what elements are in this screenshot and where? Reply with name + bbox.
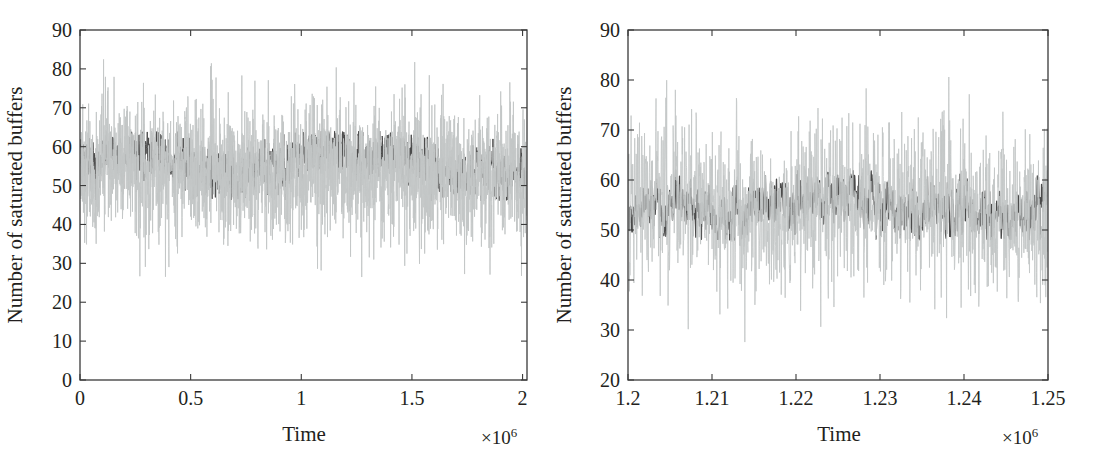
x-exponent-prefix-left: ×10	[481, 427, 511, 448]
y-tick-label-right: 80	[600, 70, 620, 90]
x-axis-title-left: Time	[204, 424, 404, 445]
x-exponent-prefix-right: ×10	[1002, 427, 1032, 448]
y-tick-label-left: 90	[52, 20, 72, 40]
x-tick-label-right: 1.21	[672, 388, 752, 408]
y-tick-label-left: 50	[52, 176, 72, 196]
chart-panel-right: Number of saturated buffers Time ×106 20…	[549, 0, 1099, 461]
x-axis-exponent-right: ×106	[1002, 428, 1038, 447]
y-tick-label-left: 80	[52, 59, 72, 79]
x-axis-exponent-left: ×106	[481, 428, 517, 447]
x-tick-label-right: 1.2	[588, 388, 668, 408]
x-tick-label-right: 1.25	[1008, 388, 1088, 408]
y-tick-label-right: 70	[600, 120, 620, 140]
series-light-gray-trace-right	[628, 77, 1048, 342]
y-tick-label-left: 20	[52, 292, 72, 312]
y-tick-label-right: 40	[600, 270, 620, 290]
x-tick-label-left: 1	[261, 388, 341, 408]
x-exponent-value-right: 6	[1032, 425, 1038, 440]
y-tick-label-right: 30	[600, 320, 620, 340]
x-tick-label-left: 1.5	[372, 388, 452, 408]
y-tick-label-left: 60	[52, 137, 72, 157]
y-tick-label-left: 40	[52, 214, 72, 234]
y-tick-label-left: 70	[52, 98, 72, 118]
x-exponent-value-left: 6	[511, 425, 517, 440]
series-light-gray-trace-left	[80, 59, 527, 277]
y-tick-label-right: 60	[600, 170, 620, 190]
chart-panel-left: Number of saturated buffers Time ×106 01…	[0, 0, 549, 461]
x-tick-label-left: 0.5	[151, 388, 231, 408]
figure-root: Number of saturated buffers Time ×106 01…	[0, 0, 1099, 461]
data-traces-right	[628, 77, 1048, 342]
x-tick-label-right: 1.22	[756, 388, 836, 408]
x-tick-label-right: 1.24	[924, 388, 1004, 408]
x-tick-label-left: 0	[40, 388, 120, 408]
y-axis-title-left: Number of saturated buffers	[5, 0, 26, 410]
y-tick-label-left: 0	[62, 370, 72, 390]
x-axis-title-right: Time	[739, 424, 939, 445]
y-tick-label-left: 30	[52, 253, 72, 273]
y-axis-title-right: Number of saturated buffers	[554, 0, 575, 410]
y-tick-label-right: 90	[600, 20, 620, 40]
x-tick-label-right: 1.23	[840, 388, 920, 408]
y-tick-label-right: 50	[600, 220, 620, 240]
data-traces-left	[80, 59, 527, 277]
y-tick-label-left: 10	[52, 331, 72, 351]
